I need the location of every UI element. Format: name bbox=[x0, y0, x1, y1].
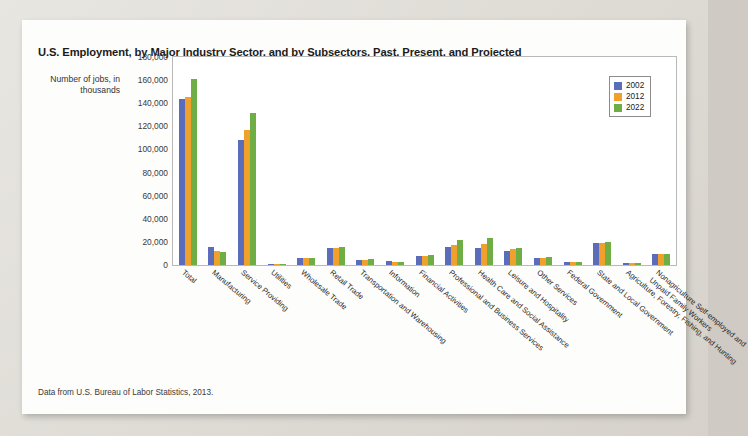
bar-2022 bbox=[428, 255, 434, 265]
y-axis-tick-label: 160,000 bbox=[120, 75, 168, 85]
bar-2022 bbox=[664, 254, 670, 265]
bar-2022 bbox=[457, 240, 463, 265]
bar-group bbox=[469, 57, 499, 265]
bar-group bbox=[410, 57, 440, 265]
legend-swatch-icon bbox=[614, 82, 622, 90]
bar-2022 bbox=[339, 247, 345, 265]
bar-2022 bbox=[605, 242, 611, 265]
y-axis-tick-label: 140,000 bbox=[120, 98, 168, 108]
x-axis-tick-label: Total bbox=[181, 268, 199, 285]
y-axis-tick-label: 80,000 bbox=[120, 168, 168, 178]
bar-group bbox=[528, 57, 558, 265]
bar-2022 bbox=[398, 262, 404, 265]
bar-2022 bbox=[635, 263, 641, 265]
bar-group bbox=[291, 57, 321, 265]
legend-label: 2022 bbox=[626, 103, 644, 112]
legend-item: 2002 bbox=[614, 80, 644, 91]
bar-2022 bbox=[576, 262, 582, 265]
bar-group bbox=[499, 57, 529, 265]
source-note: Data from U.S. Bureau of Labor Statistic… bbox=[38, 388, 213, 397]
bar-group bbox=[232, 57, 262, 265]
bar-2022 bbox=[487, 238, 493, 265]
bar-group bbox=[262, 57, 292, 265]
bar-group bbox=[321, 57, 351, 265]
legend-item: 2012 bbox=[614, 91, 644, 102]
legend-label: 2012 bbox=[626, 92, 644, 101]
y-axis-tick-label: 40,000 bbox=[120, 214, 168, 224]
chart-legend: 200220122022 bbox=[609, 76, 651, 117]
y-axis-tick-label: 180,000 bbox=[120, 52, 168, 62]
y-axis-tick-label: 100,000 bbox=[120, 144, 168, 154]
y-axis-tick-label: 120,000 bbox=[120, 121, 168, 131]
y-axis-tick-label: 60,000 bbox=[120, 191, 168, 201]
x-axis-labels: TotalManufacturingService ProvidingUtili… bbox=[173, 268, 676, 388]
figure-card: U.S. Employment, by Major Industry Secto… bbox=[22, 20, 686, 414]
x-axis-tick-label: Federal Government bbox=[565, 268, 624, 320]
bar-2022 bbox=[309, 258, 315, 265]
legend-swatch-icon bbox=[614, 93, 622, 101]
legend-item: 2022 bbox=[614, 102, 644, 113]
bar-group bbox=[203, 57, 233, 265]
bar-group bbox=[173, 57, 203, 265]
bar-series-container bbox=[173, 57, 676, 265]
x-axis-tick-label: Nonagriculture Self-employed andUnpaid F… bbox=[647, 268, 748, 357]
y-axis-tick-label: 0 bbox=[120, 260, 168, 270]
bar-2022 bbox=[220, 252, 226, 265]
bar-2022 bbox=[280, 264, 286, 265]
y-axis-tick-label: 20,000 bbox=[120, 237, 168, 247]
legend-swatch-icon bbox=[614, 104, 622, 112]
bar-2022 bbox=[546, 257, 552, 265]
bar-2022 bbox=[191, 79, 197, 265]
bar-group bbox=[558, 57, 588, 265]
bar-group bbox=[380, 57, 410, 265]
y-axis-title: Number of jobs, in thousands bbox=[40, 74, 120, 96]
bar-2022 bbox=[516, 248, 522, 265]
bar-group bbox=[439, 57, 469, 265]
bar-group bbox=[351, 57, 381, 265]
bar-2022 bbox=[250, 113, 256, 265]
bar-2022 bbox=[368, 259, 374, 265]
x-axis-tick-label: Agriculture, Forestry, Fishing, and Hunt… bbox=[624, 268, 738, 366]
legend-label: 2002 bbox=[626, 81, 644, 90]
x-axis-tick-label: Utilities bbox=[269, 268, 294, 291]
chart-plot-area: 020,00040,00060,00080,000100,000120,0001… bbox=[125, 56, 677, 284]
